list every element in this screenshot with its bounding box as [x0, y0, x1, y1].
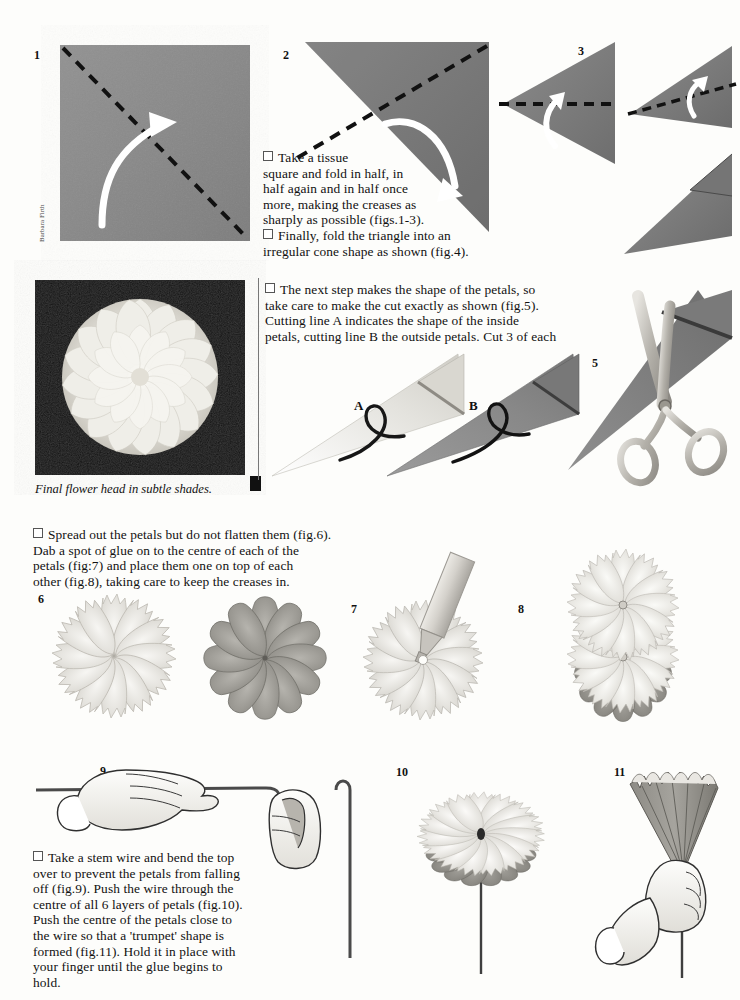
figure-6-dark-rosette	[195, 588, 335, 728]
fold-line-7: irregular cone shape as shown (fig.4).	[263, 244, 469, 259]
spread-line-1: Spread out the petals but do not flatten…	[48, 527, 331, 542]
text-block-spread: Spread out the petals but do not flatten…	[33, 527, 463, 589]
figure-6-light-rosette	[44, 586, 184, 726]
fold-line-2: square and fold in half, in	[263, 166, 403, 181]
figure-number-8: 8	[518, 602, 524, 617]
fold-line-3: half again and in half once	[263, 181, 408, 196]
stem-line-1: Take a stem wire and bend the top	[48, 850, 234, 865]
fold-line-4: more, making the creases as	[263, 197, 416, 212]
final-flower-photo	[35, 280, 245, 475]
stem-line-7: formed (fig.11). Hold it in place with	[33, 944, 236, 959]
spread-line-3: petals (fig:7) and place them one on top…	[33, 558, 293, 573]
cut-line-3: Cutting line A indicates the shape of th…	[265, 313, 519, 328]
stem-line-9: hold.	[33, 975, 61, 990]
stem-line-6: the wire so that a 'trumpet' shape is	[33, 928, 224, 943]
stem-line-4: centre of all 6 layers of petals (fig.10…	[33, 897, 243, 912]
figure-11	[590, 762, 740, 982]
photo-caption: Final flower head in subtle shades.	[35, 482, 212, 497]
stem-line-3: off (fig.9). Push the wire through the	[33, 881, 234, 896]
text-block-stem: Take a stem wire and bend the top over t…	[33, 850, 313, 990]
end-of-article-marker	[250, 476, 261, 491]
figure-3-folded	[628, 42, 738, 134]
stem-wire	[330, 770, 360, 960]
cut-line-2: take care to make the cut exactly as sho…	[265, 298, 539, 313]
stem-line-2: over to prevent the petals from falling	[33, 866, 240, 881]
cut-line-4: petals, cutting line B the outside petal…	[265, 329, 556, 344]
figure-number-1: 1	[34, 48, 40, 63]
text-block-folding: Take a tissue square and fold in half, i…	[263, 150, 483, 259]
column-divider	[258, 278, 259, 480]
figure-8	[528, 545, 718, 725]
instruction-page: Barbara Firth 1 2	[0, 0, 740, 1000]
spread-line-2: Dab a spot of glue on to the centre of e…	[33, 543, 299, 558]
figure-4	[622, 152, 737, 262]
checkbox-bullet-icon-5	[33, 851, 43, 861]
fold-line-1: Take a tissue	[278, 150, 348, 165]
figure-number-2: 2	[283, 48, 289, 63]
photographer-credit: Barbara Firth	[38, 204, 46, 242]
figure-10	[386, 760, 576, 980]
fold-line-5: sharply as possible (figs.1-3).	[263, 212, 424, 227]
fold-line-6: Finally, fold the triangle into an	[278, 228, 451, 243]
figure-5	[566, 290, 740, 490]
checkbox-bullet-icon-3	[265, 283, 275, 293]
stem-line-5: Push the centre of the petals close to	[33, 912, 232, 927]
checkbox-bullet-icon-2	[263, 229, 273, 239]
stem-line-8: your finger until the glue begins to	[33, 959, 223, 974]
figure-3	[497, 38, 617, 168]
cut-line-1: The next step makes the shape of the pet…	[280, 282, 535, 297]
checkbox-bullet-icon-4	[33, 528, 43, 538]
figure-7	[355, 582, 515, 732]
figure-cut-line-b	[383, 352, 583, 482]
checkbox-bullet-icon	[263, 151, 273, 161]
figure-1	[55, 40, 255, 245]
